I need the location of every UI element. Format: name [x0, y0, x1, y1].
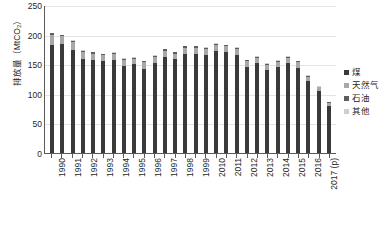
bar-column [78, 6, 88, 153]
bar-segment [60, 36, 64, 44]
stacked-bar [276, 60, 280, 153]
stacked-bar [101, 54, 105, 153]
bar-segment [71, 50, 75, 153]
stacked-bar [91, 52, 95, 153]
bar-segment [276, 67, 280, 153]
legend-label: 天然气 [352, 81, 379, 90]
y-tick-label: 0 [37, 150, 42, 158]
stacked-bar [224, 45, 228, 153]
bar-column [139, 6, 149, 153]
bar-segment [91, 60, 95, 153]
bar-column [303, 6, 313, 153]
emissions-bar-chart: 排放量（MtCO₂） 250200150100500 1990199119921… [0, 0, 391, 231]
bar-segment [71, 42, 75, 50]
bar-column [252, 6, 262, 153]
bar-segment [317, 91, 321, 153]
stacked-bar [173, 52, 177, 153]
stacked-bar [132, 57, 136, 153]
stacked-bar [81, 50, 85, 153]
bar-column [273, 6, 283, 153]
bar-segment [112, 60, 116, 153]
bar-segment [327, 106, 331, 153]
stacked-bar [71, 40, 75, 153]
stacked-bar [60, 35, 64, 153]
stacked-bar [204, 47, 208, 153]
legend-swatch-icon [344, 70, 349, 75]
legend-swatch-icon [344, 96, 349, 101]
bar-segment [245, 67, 249, 153]
x-tick-label: 2011 [234, 158, 242, 176]
x-tick-label: 1999 [202, 158, 210, 177]
bar-column [68, 6, 78, 153]
x-tick-label: 1992 [90, 158, 98, 177]
bar-segment [81, 59, 85, 153]
bar-column [150, 6, 160, 153]
bar-column [221, 6, 231, 153]
bar-column [180, 6, 190, 153]
bar-column [88, 6, 98, 153]
bar-segment [204, 55, 208, 153]
legend-item[interactable]: 其他 [344, 105, 390, 118]
legend-label: 煤 [352, 68, 361, 77]
bar-segment [306, 81, 310, 153]
x-tick-label: 1993 [106, 158, 114, 177]
x-tick-label: 1997 [170, 158, 178, 177]
x-tick-label: 1990 [58, 158, 66, 177]
bar-column [242, 6, 252, 153]
bar-column [232, 6, 242, 153]
bar-segment [265, 70, 269, 153]
y-tick-label: 250 [28, 2, 42, 10]
stacked-bar [235, 47, 239, 153]
bar-segment [224, 52, 228, 153]
stacked-bar [265, 63, 269, 153]
y-tick-label: 150 [28, 61, 42, 69]
bar-column [201, 6, 211, 153]
bar-segment [235, 55, 239, 153]
y-tick-label: 200 [28, 32, 42, 40]
stacked-bar [306, 75, 310, 153]
stacked-bar [163, 49, 167, 153]
bar-segment [194, 54, 198, 153]
bar-column [170, 6, 180, 153]
bar-column [283, 6, 293, 153]
legend-item[interactable]: 煤 [344, 66, 390, 79]
bar-segment [153, 63, 157, 153]
bar-segment [214, 51, 218, 153]
bar-column [160, 6, 170, 153]
stacked-bar [286, 56, 290, 153]
bar-column [129, 6, 139, 153]
legend-item[interactable]: 石油 [344, 92, 390, 105]
stacked-bar [153, 55, 157, 153]
x-tick-label: 2015 [298, 158, 306, 177]
stacked-bar [214, 43, 218, 153]
x-tick-label: 2010 [218, 158, 226, 177]
legend-item[interactable]: 天然气 [344, 79, 390, 92]
bar-column [57, 6, 67, 153]
bar-column [293, 6, 303, 153]
legend-swatch-icon [344, 83, 349, 88]
stacked-bar [317, 86, 321, 153]
bar-segment [132, 64, 136, 153]
bar-segment [50, 45, 54, 153]
x-tick-label: 1995 [138, 158, 146, 177]
stacked-bar [112, 52, 116, 153]
bar-column [119, 6, 129, 153]
x-tick-label: 1994 [122, 158, 130, 177]
stacked-bar [142, 61, 146, 153]
y-axis-tick-labels: 250200150100500 [16, 0, 42, 160]
bar-column [324, 6, 334, 153]
chart-legend: 煤天然气石油其他 [344, 66, 390, 118]
bar-column [109, 6, 119, 153]
bar-column [191, 6, 201, 153]
bar-series-group [45, 6, 336, 153]
bar-column [262, 6, 272, 153]
bar-column [211, 6, 221, 153]
x-tick-label: 2014 [282, 158, 290, 177]
plot-area [44, 6, 336, 154]
legend-label: 石油 [352, 94, 370, 103]
bar-segment [60, 44, 64, 153]
bar-segment [286, 63, 290, 153]
stacked-bar [327, 102, 331, 153]
bar-segment [50, 35, 54, 45]
bar-segment [173, 59, 177, 153]
